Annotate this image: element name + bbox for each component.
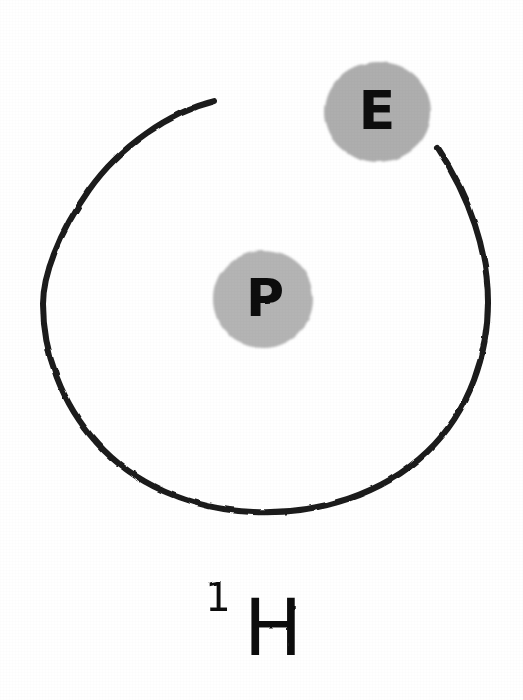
electron-label: E	[359, 79, 396, 142]
mass-number-label: 1	[205, 574, 230, 620]
proton-particle: P	[213, 250, 313, 348]
proton-label: P	[246, 268, 284, 328]
atom-diagram-canvas: P E 1 H	[0, 0, 523, 700]
element-symbol-label: H	[244, 583, 303, 673]
hydrogen-atom-figure: P E 1 H	[0, 0, 523, 700]
electron-particle: E	[325, 62, 431, 162]
